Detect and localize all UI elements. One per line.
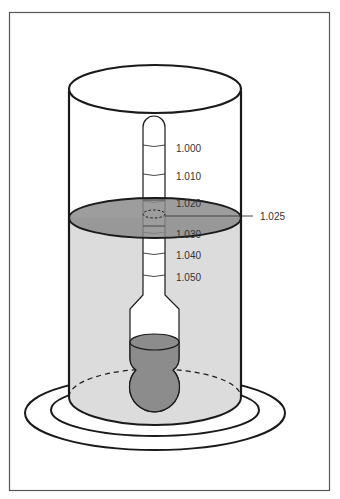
hydrometer-bulb (130, 342, 180, 412)
scale-label-1010: 1.010 (176, 171, 201, 182)
hydrometer-diagram: 1.000 1.010 1.020 1.030 1.040 1.050 1.02… (0, 0, 340, 499)
scale-label-1050: 1.050 (176, 272, 201, 283)
scale-label-1020: 1.020 (176, 198, 201, 209)
scale-label-1040: 1.040 (176, 250, 201, 261)
reading-label: 1.025 (260, 211, 285, 222)
scale-label-1030: 1.030 (176, 229, 201, 240)
scale-label-1000: 1.000 (176, 143, 201, 154)
